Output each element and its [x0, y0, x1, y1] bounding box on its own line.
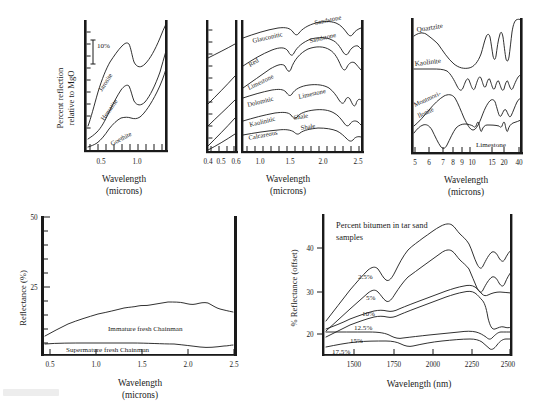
panel5-x-ticks: [354, 349, 510, 354]
panel5-ytick-1: 30: [306, 289, 314, 297]
panel5-title-line2: samples: [336, 233, 363, 242]
panel3-xtick-1: 6: [427, 159, 431, 167]
panel4-xtick-0: 0.5: [46, 361, 55, 369]
panel2-xlabel-line1: Wavelength: [266, 174, 311, 184]
panel2-xtick-r0: 1.0: [256, 158, 265, 166]
panel3-xtick-3: 8: [451, 159, 455, 167]
label-montmorillonite-line2: llonite: [416, 105, 434, 118]
panel1-xlabel-line1: Wavelength: [102, 174, 147, 184]
panel2-xtick-l2: 0.6: [232, 158, 241, 166]
panel-tar-sand-bitumen-spectra: % Reflectance (offset) 40 30 20 1500 175…: [284, 206, 534, 402]
panel3-y-axis: [411, 18, 414, 154]
panel2-break-axis-a: [235, 20, 237, 153]
label-kaolinite: Kaolinite: [414, 57, 441, 68]
panel2-xtick-r3: 2.5: [354, 158, 363, 166]
panel3-xtick-2: 7: [441, 159, 445, 167]
panel4-y-ticks: [44, 217, 50, 343]
panel2-right-axis: [361, 20, 364, 153]
panel5-title-line1: Percent bitumen in tar sand: [336, 221, 428, 230]
panel1-scalebar: [91, 40, 96, 64]
label-jarosite: Jarosite: [97, 72, 114, 93]
curve-jarosite: [88, 24, 166, 126]
panel2-x-axis-right: [241, 151, 364, 153]
panel1-y-ticks: [87, 32, 91, 128]
panel3-xtick-5: 10: [468, 159, 476, 167]
panel4-xlabel-line2: (microns): [122, 390, 158, 401]
panel-sedimentary-rock-spectra: 0.4 0.5 0.6 1.0 1.5 2.0 2.5 Glauconitic …: [198, 6, 378, 196]
panel3-x-axis: [411, 152, 523, 154]
label-hematite: Hematite: [99, 98, 119, 122]
label-shale-2: Shale: [300, 122, 316, 131]
label-sandstone-2: Sandstone: [309, 31, 337, 44]
label-bitumen-10: 10%: [362, 310, 375, 318]
panel1-x-axis: [84, 150, 168, 152]
panel1-right-axis: [165, 20, 168, 152]
label-supermature-chainman: Supermature fresh Chainman: [66, 346, 150, 354]
panel5-x-axis: [322, 354, 512, 356]
curve-bitumen-5: [326, 250, 511, 331]
panel5-ytick-0: 20: [306, 331, 314, 339]
panel1-xtick-1: 1.0: [133, 158, 142, 166]
panel1-x-ticks: [90, 144, 162, 150]
panel-iron-oxide-spectra: Percent reflection relative to MgO 0.5 1…: [52, 6, 182, 196]
label-shale-1: Shale: [293, 112, 309, 121]
label-bitumen-5: 5%: [366, 294, 376, 302]
panel5-xtick-4: 2500: [501, 361, 516, 369]
panel2-xlabel-line2: (microns): [270, 186, 306, 197]
panel4-y-axis: [41, 216, 44, 356]
panel1-xlabel-line2: (microns): [106, 186, 142, 197]
panel4-xtick-4: 2.5: [230, 361, 239, 369]
panel5-right-axis: [510, 214, 512, 356]
label-limestone-2: Limestone: [298, 87, 327, 100]
panel3-xtick-6: 15: [488, 159, 496, 167]
panel2-x-axis-left: [206, 151, 238, 153]
panel3-right-axis: [520, 18, 523, 154]
label-bitumen-17-5: 17.5%: [332, 348, 350, 356]
label-goethite: Goethite: [109, 130, 132, 147]
label-quartzite: Quartzite: [416, 22, 443, 34]
curve-hematite: [88, 51, 166, 139]
panel-chainman-shale-spectra: Reflectance (%) 50 25 0.5 1.0 1.5 2.0 2.…: [12, 206, 282, 402]
panel-mineral-thermal-infrared-spectra: 5 6 7 8 9 10 15 20 40 Quartzite Kaolinit…: [398, 6, 534, 196]
panel2-right-x-ticks: [247, 146, 359, 151]
label-limestone-ir: Limestone: [476, 141, 506, 149]
panel5-xtick-1: 1750: [387, 361, 402, 369]
panel3-xlabel-line1: Wavelength: [444, 175, 489, 185]
panel5-ytick-2: 40: [306, 245, 314, 253]
panel1-xtick-0: 0.5: [97, 158, 106, 166]
label-red: Red: [247, 56, 260, 68]
panel5-ylabel: % Reflectance (offset): [289, 249, 299, 326]
panel2-break-axis-b: [241, 20, 243, 153]
panel5-xlabel: Wavelength (nm): [387, 379, 452, 390]
panel4-ylabel: Reflectance (%): [18, 270, 28, 326]
panel3-xlabel-line2: (microns): [448, 187, 484, 198]
panel2-xtick-l1: 0.5: [217, 158, 226, 166]
page-artifact: [3, 389, 59, 396]
label-kaolinitic: Kaolinitic: [249, 115, 276, 128]
label-immature-chainman: Immature fresh Chainman: [108, 325, 183, 333]
curve-kaolinite: [414, 69, 521, 90]
panel1-scalebar-label: 10%: [97, 42, 110, 50]
panel5-xtick-3: 2250: [465, 361, 480, 369]
panel1-ylabel-line2: relative to MgO: [66, 71, 76, 126]
panel3-xtick-0: 5: [413, 159, 417, 167]
panel5-xtick-2: 2000: [426, 361, 441, 369]
panel4-ytick-0: 25: [30, 284, 38, 292]
label-calcareous: Calcareous: [248, 128, 279, 141]
panel4-right-axis: [234, 216, 237, 356]
panel2-left-segments: [208, 44, 235, 150]
panel5-y-axis: [322, 214, 324, 356]
label-montmorillonite-line1: Montmori-: [412, 89, 441, 108]
panel5-xtick-0: 1500: [347, 361, 362, 369]
panel1-ylabel-line1: Percent reflection: [55, 67, 65, 129]
label-dolomitic: Dolomitic: [247, 95, 275, 108]
panel1-y-axis: [84, 20, 87, 152]
panel4-xlabel-line1: Wavelength: [118, 378, 163, 388]
panel4-xtick-2: 1.5: [138, 361, 147, 369]
panel3-xtick-4: 9: [460, 159, 464, 167]
panel2-xtick-r2: 2.0: [319, 158, 328, 166]
panel2-left-axis: [206, 20, 208, 153]
panel3-xtick-8: 40: [515, 159, 523, 167]
panel3-xtick-7: 20: [500, 159, 508, 167]
panel4-xtick-3: 2.0: [184, 361, 193, 369]
